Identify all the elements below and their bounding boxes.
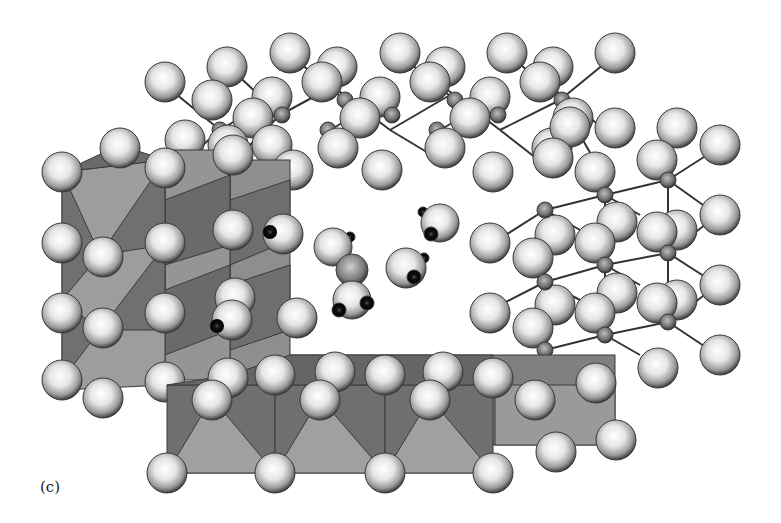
crystal-structure-figure	[0, 0, 781, 523]
guest-molecules	[314, 204, 459, 319]
panel-label: (c)	[40, 478, 60, 496]
right-lattice-atoms	[470, 107, 740, 388]
